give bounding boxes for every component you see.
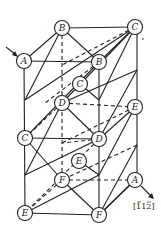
svg-text:F: F: [58, 175, 66, 185]
svg-text:D: D: [94, 134, 102, 144]
svg-text:A: A: [131, 175, 139, 185]
atom-E-right: E: [128, 100, 143, 115]
crystal-stacking-diagram: B C A B C D E C D E F A E F [112]: [0, 0, 161, 233]
atom-C-mid: C: [73, 77, 88, 92]
direction-arrow: [141, 186, 154, 199]
atom-E-bottom: E: [18, 206, 33, 221]
svg-text:B: B: [58, 23, 66, 33]
svg-text:C: C: [132, 22, 139, 32]
svg-text:E: E: [75, 156, 83, 166]
direction-label: [112]: [133, 202, 155, 211]
atom-E-mid: E: [72, 154, 87, 169]
svg-text:D: D: [57, 98, 65, 108]
atom-B-front: B: [92, 55, 107, 70]
svg-text:C: C: [77, 79, 84, 89]
svg-text:F: F: [95, 210, 103, 220]
atom-F-back: F: [55, 173, 70, 188]
atom-A-left: A: [17, 54, 32, 69]
atom-F-bottom: F: [92, 208, 107, 223]
svg-text:A: A: [20, 56, 28, 66]
atom-A-right: A: [128, 173, 143, 188]
dot-mark: [142, 38, 144, 40]
atom-C-left: C: [18, 131, 33, 146]
incoming-arrow: [6, 47, 18, 57]
svg-text:E: E: [21, 208, 29, 218]
atom-D-front: D: [92, 132, 107, 147]
atom-C-top: C: [128, 20, 143, 35]
svg-text:B: B: [95, 57, 103, 67]
atom-B-top: B: [55, 21, 70, 36]
svg-text:E: E: [131, 102, 139, 112]
svg-text:[112]: [112]: [133, 202, 155, 211]
stacking-plane-lines: [25, 27, 137, 215]
atom-D-back: D: [55, 96, 70, 111]
svg-text:C: C: [22, 133, 29, 143]
